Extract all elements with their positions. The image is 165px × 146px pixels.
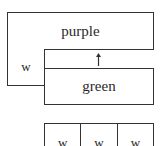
block-green: green [44, 68, 154, 105]
block-w-left: w [7, 49, 45, 86]
bottom-row-blocks: w w w [44, 123, 154, 146]
block-w-cell: w [80, 124, 116, 146]
block-w-cell: w [45, 124, 80, 146]
block-w-cell-label: w [131, 135, 140, 146]
block-purple: purple [7, 12, 154, 50]
block-w-cell-label: w [58, 135, 67, 146]
block-w-left-label: w [21, 59, 30, 75]
block-w-cell: w [117, 124, 153, 146]
block-green-label: green [82, 78, 115, 95]
block-w-cell-label: w [94, 135, 103, 146]
block-purple-label: purple [61, 23, 99, 40]
up-arrow-icon [95, 53, 102, 66]
